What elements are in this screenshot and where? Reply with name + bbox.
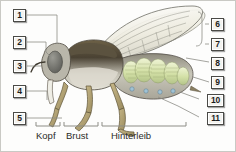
region-braces [36, 122, 186, 126]
sting [190, 86, 201, 92]
callout-number-11[interactable]: 11 [207, 112, 224, 125]
callout-number-7[interactable]: 7 [211, 38, 224, 51]
region-label-hinterleib: Hinterleib [111, 130, 151, 141]
callout-number-5[interactable]: 5 [13, 112, 26, 125]
thorax [62, 40, 123, 90]
callout-number-9[interactable]: 9 [211, 76, 224, 89]
abdomen [111, 54, 201, 99]
proboscis [47, 80, 54, 104]
foreleg [55, 82, 68, 110]
callout-number-10[interactable]: 10 [207, 94, 224, 107]
callout-number-2[interactable]: 2 [13, 36, 26, 49]
midleg [86, 86, 93, 113]
compound-eye [48, 51, 63, 73]
callout-number-1[interactable]: 1 [13, 9, 26, 22]
callout-number-6[interactable]: 6 [211, 18, 224, 31]
region-label-brust: Brust [66, 130, 88, 141]
callout-number-3[interactable]: 3 [13, 60, 26, 73]
callout-number-4[interactable]: 4 [13, 85, 26, 98]
region-label-kopf: Kopf [36, 130, 56, 141]
bee-anatomy-diagram: 1 2 3 4 5 6 7 8 9 10 11 Kopf Brust Hinte… [0, 0, 236, 152]
callout-number-8[interactable]: 8 [211, 57, 224, 70]
